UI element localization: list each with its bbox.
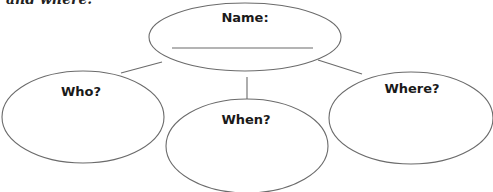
who-label: Who? xyxy=(61,84,101,99)
name-bubble: Name: xyxy=(149,3,341,71)
where-label: Where? xyxy=(384,81,439,96)
name-label: Name: xyxy=(221,10,268,25)
when-label: When? xyxy=(221,112,270,127)
connector-name-who xyxy=(121,62,162,73)
graphic-organizer: Name: Who? When? Where? xyxy=(0,0,493,192)
where-bubble: Where? xyxy=(329,72,493,164)
connector-name-where xyxy=(318,60,362,74)
when-bubble: When? xyxy=(166,99,328,192)
who-bubble: Who? xyxy=(2,71,164,163)
